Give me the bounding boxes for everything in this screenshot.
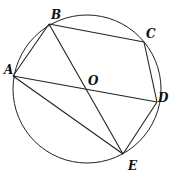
label-E: E: [127, 159, 138, 173]
segment-BC: [49, 24, 144, 42]
segment-AE: [13, 76, 123, 154]
label-O: O: [88, 74, 99, 88]
segment-BE: [49, 24, 123, 154]
label-A: A: [3, 63, 13, 77]
geometry-diagram: A B C D E O: [0, 0, 177, 178]
segment-AB: [13, 24, 49, 76]
label-B: B: [50, 8, 61, 22]
segment-DE: [123, 102, 157, 154]
segment-AD: [13, 76, 157, 102]
label-C: C: [146, 27, 156, 41]
label-D: D: [157, 91, 169, 105]
segments: [13, 24, 157, 154]
